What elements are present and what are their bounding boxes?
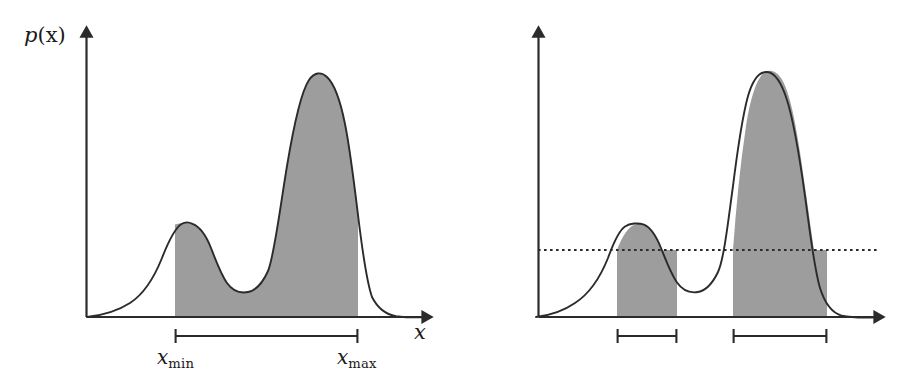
x-max-label-subscript: max: [348, 356, 376, 371]
y-axis-label-left: p(x): [24, 25, 66, 46]
x-min-label: xmin: [157, 347, 194, 370]
x-max-label: xmax: [337, 347, 377, 370]
x-min-label-subscript: min: [168, 356, 194, 371]
x-max-label-base: x: [337, 345, 348, 369]
interval-bracket-component-1: [617, 329, 677, 343]
right-panel-canvas: [460, 0, 921, 379]
y-axis-label-base-left: p: [24, 23, 37, 47]
interval-bracket-xmin-xmax: [175, 329, 358, 343]
shaded-region-component-2: [733, 71, 827, 317]
panel-left-interval-truncation: p(x) x xmin xmax: [0, 0, 460, 379]
density-curve: [87, 73, 428, 317]
shaded-region-component-1: [617, 224, 677, 317]
panel-right-density-level-truncation: p(x) x p*: [460, 0, 921, 379]
x-min-label-base: x: [157, 345, 168, 369]
y-axis-label-arg-left: (x): [37, 23, 65, 47]
figure-root: p(x) x xmin xmax: [0, 0, 921, 379]
interval-bracket-component-2: [733, 329, 827, 343]
left-panel-canvas: [0, 0, 460, 379]
shaded-region-xmin-xmax: [175, 73, 358, 317]
x-axis-label-base-left: x: [414, 320, 426, 344]
x-axis-label-left: x: [414, 322, 426, 343]
